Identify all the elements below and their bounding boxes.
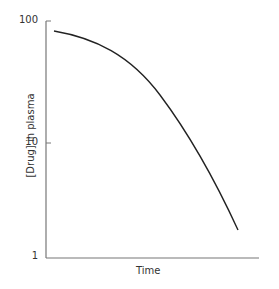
concentration-curve — [54, 31, 238, 230]
x-axis-label: Time — [136, 265, 160, 276]
y-axis-label: [Drug] in plasma — [25, 86, 36, 186]
chart-canvas — [0, 0, 279, 289]
y-tick-label-100: 100 — [8, 14, 38, 25]
y-tick-label-1: 1 — [8, 250, 38, 261]
